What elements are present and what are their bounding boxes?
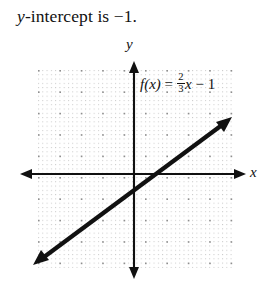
figure-panel: y-intercept is −1. xyxy=(0,0,272,282)
fraction-denominator: 3 xyxy=(177,83,184,95)
equation-argument: (x) xyxy=(144,76,161,92)
fraction-numerator: 2 xyxy=(177,72,184,83)
equation-fraction: 23 xyxy=(177,72,184,94)
x-axis-right-arrow xyxy=(234,169,246,179)
coordinate-graph: y x f(x) = 23x − 1 xyxy=(0,32,272,282)
caption-rest: -intercept is −1. xyxy=(25,6,137,26)
caption-variable: y xyxy=(17,6,25,26)
equation-annotation: f(x) = 23x − 1 xyxy=(140,74,215,96)
caption-text: y-intercept is −1. xyxy=(17,3,257,29)
x-axis-label: x xyxy=(250,165,257,180)
y-axis-label: y xyxy=(126,37,133,52)
equation-constant: − 1 xyxy=(195,76,215,92)
equation-variable: x xyxy=(185,76,192,92)
equation-equals: = xyxy=(165,76,173,92)
y-axis-top-arrow xyxy=(129,61,139,73)
y-axis-bottom-arrow xyxy=(129,267,139,279)
graph-svg xyxy=(0,32,272,282)
x-axis-left-arrow xyxy=(20,169,32,179)
